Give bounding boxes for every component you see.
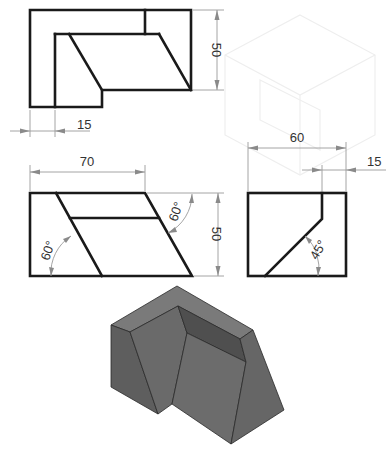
watermark-cube — [225, 15, 375, 175]
dimension-label: 60 — [290, 130, 304, 145]
angle-front-right: 60° — [165, 194, 194, 233]
angle-label: 60° — [37, 239, 58, 263]
dimension-side-60: 60 — [248, 130, 346, 191]
top-view-diagonal-right — [159, 34, 191, 90]
angle-side: 45° — [305, 236, 330, 276]
front-view-outline — [30, 193, 192, 276]
side-view: 60 15 45° — [248, 130, 386, 276]
dimension-top-50: 50 — [193, 10, 224, 90]
angle-front-left: 60° — [37, 236, 71, 276]
top-view-diagonal-left — [69, 34, 102, 90]
dimension-side-15: 15 — [302, 154, 386, 191]
dimension-label: 15 — [77, 117, 91, 132]
isometric-view — [111, 286, 284, 444]
front-view-inner-diagonal — [56, 193, 102, 276]
top-view: 50 15 — [10, 10, 224, 137]
dimension-label: 15 — [367, 154, 381, 169]
side-view-inner-cut — [265, 193, 322, 276]
dimension-label: 70 — [80, 154, 94, 169]
front-view: 70 50 60° 60° — [30, 154, 224, 276]
dimension-label: 50 — [209, 43, 224, 57]
drawing-canvas: 50 15 70 — [0, 0, 387, 450]
side-view-outline — [248, 193, 346, 276]
dimension-label: 50 — [209, 227, 224, 241]
dimension-top-15: 15 — [10, 110, 91, 137]
dimension-front-70: 70 — [30, 154, 145, 191]
